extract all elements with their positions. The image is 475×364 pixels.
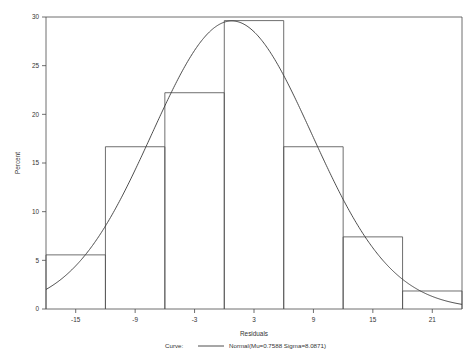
histogram-chart: -15-9-3391521 051015202530 Residuals Per… xyxy=(0,0,475,364)
y-axis-ticks xyxy=(42,17,46,309)
y-tick-label: 30 xyxy=(32,13,40,20)
legend: Curve: Normal(Mu=0.7588 Sigma=8.0871) xyxy=(165,342,326,349)
legend-prefix-label: Curve: xyxy=(165,342,184,349)
x-axis-ticks xyxy=(76,309,433,313)
y-tick-label: 10 xyxy=(32,208,40,215)
histogram-bar xyxy=(403,291,462,309)
x-axis-title: Residuals xyxy=(240,330,268,337)
histogram-bars xyxy=(46,21,462,309)
y-tick-label: 20 xyxy=(32,111,40,118)
x-tick-label: -15 xyxy=(71,316,81,323)
x-tick-label: -3 xyxy=(192,316,198,323)
histogram-bar xyxy=(224,21,283,309)
plot-frame xyxy=(46,17,462,309)
y-axis-title: Percent xyxy=(14,152,21,174)
y-tick-label: 25 xyxy=(32,62,40,69)
x-tick-label: -9 xyxy=(132,316,138,323)
histogram-bar xyxy=(284,147,343,309)
y-tick-label: 0 xyxy=(35,305,39,312)
y-tick-label: 5 xyxy=(35,257,39,264)
histogram-bar xyxy=(105,147,164,309)
legend-entry-label: Normal(Mu=0.7588 Sigma=8.0871) xyxy=(229,342,326,349)
histogram-svg: -15-9-3391521 051015202530 Residuals Per… xyxy=(0,0,475,364)
x-tick-labels: -15-9-3391521 xyxy=(71,316,436,323)
histogram-bar xyxy=(46,255,105,309)
plot-border xyxy=(46,17,462,309)
x-tick-label: 21 xyxy=(429,316,437,323)
y-tick-label: 15 xyxy=(32,159,40,166)
x-tick-label: 15 xyxy=(369,316,377,323)
x-tick-label: 3 xyxy=(252,316,256,323)
normal-density-curve xyxy=(46,21,462,304)
x-tick-label: 9 xyxy=(312,316,316,323)
histogram-bar xyxy=(165,93,224,309)
y-tick-labels: 051015202530 xyxy=(32,13,40,312)
